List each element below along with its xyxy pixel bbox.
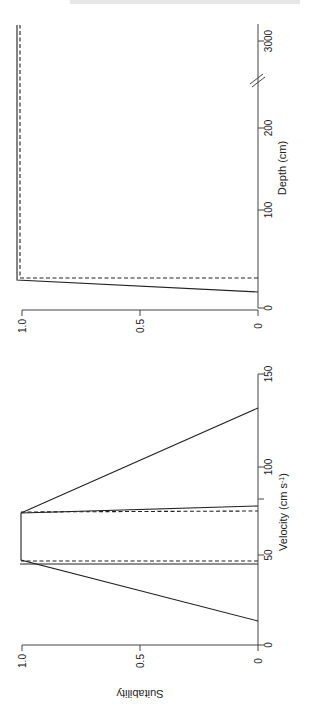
- depth-tick-200: 200: [263, 119, 274, 136]
- depth-panel: 0 100 200 3000 Depth (cm) 1.0 0.5 0: [17, 24, 288, 333]
- velocity-panel: 0 50 100 150 Velocity (cm s-1) 1.0 0.5 0…: [17, 365, 289, 700]
- velocity-tick-50: 50: [263, 549, 274, 561]
- suit-tick-0: 0: [253, 323, 264, 329]
- depth-dashed-curve: [20, 25, 258, 278]
- velocity-tick-150: 150: [263, 365, 274, 382]
- velocity-suitability-ticks: [22, 645, 258, 651]
- velocity-suitability-tick-labels: 1.0 0.5 0: [17, 654, 264, 668]
- depth-axis-title: Depth (cm): [276, 141, 288, 195]
- depth-solid-curve: [17, 25, 258, 292]
- velocity-dashed-rectangle-top: [21, 511, 258, 512]
- velocity-solid-trapezoid: [21, 408, 258, 621]
- velocity-tick-0: 0: [263, 642, 274, 648]
- velocity-ticks: [258, 374, 264, 645]
- suit-tick-0-b: 0: [253, 658, 264, 664]
- velocity-tick-labels: 0 50 100 150: [263, 365, 274, 648]
- depth-tick-3000: 3000: [263, 29, 274, 52]
- depth-suitability-ticks: [22, 310, 258, 316]
- suit-tick-05: 0.5: [135, 319, 146, 333]
- depth-ticks: [258, 41, 264, 308]
- depth-suitability-tick-labels: 1.0 0.5 0: [17, 319, 264, 333]
- suitability-figure: 0 100 200 3000 Depth (cm) 1.0 0.5 0: [0, 0, 319, 716]
- suit-tick-05-b: 0.5: [135, 654, 146, 668]
- suitability-axis-title: Suitability: [116, 688, 164, 700]
- depth-tick-0: 0: [263, 305, 274, 311]
- suit-tick-1-b: 1.0: [17, 654, 28, 668]
- velocity-axis-title: Velocity (cm s-1): [277, 473, 289, 551]
- suit-tick-1: 1.0: [17, 319, 28, 333]
- depth-tick-100: 100: [263, 201, 274, 218]
- depth-tick-labels: 0 100 200 3000: [263, 29, 274, 310]
- velocity-tick-100: 100: [263, 458, 274, 475]
